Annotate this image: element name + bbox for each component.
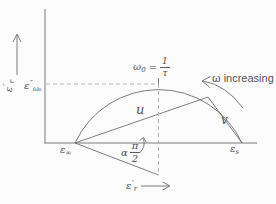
y-value-label: ε″ω₀ — [24, 79, 41, 93]
omega-increasing-arrow-icon — [203, 81, 243, 108]
equals-sign: = — [149, 63, 157, 73]
peak-frequency-label: ω0 = 1 τ — [133, 57, 170, 78]
omega-increasing-label: ω increasing — [212, 73, 274, 84]
chord-u-label: u — [136, 103, 144, 116]
alpha-symbol: α — [121, 148, 128, 158]
eps-static-label: εs — [230, 144, 239, 156]
angle-arrow-icon — [140, 138, 147, 143]
cole-cole-diagram: ε″r ε″ω₀ ω0 = 1 τ ω increasing u v ε∞ εs… — [0, 0, 276, 204]
center-construction-line — [75, 143, 159, 175]
pi-over-two-fraction: π 2 — [130, 141, 141, 164]
x-axis-label: ε′r — [126, 179, 137, 193]
one-over-tau-fraction: 1 τ — [160, 57, 170, 78]
y-axis-label: ε″r — [2, 74, 18, 98]
eps-infinity-label: ε∞ — [60, 145, 71, 157]
omega0-symbol: ω0 — [133, 62, 146, 74]
angle-label: α π 2 — [121, 141, 140, 164]
chord-v-label: v — [221, 114, 228, 126]
